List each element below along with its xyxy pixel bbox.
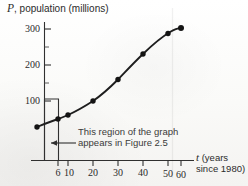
inset-region-box	[45, 99, 59, 161]
data-point	[90, 98, 95, 103]
x-tick-label-40: 40	[134, 167, 152, 178]
data-point	[34, 124, 39, 129]
data-point	[165, 31, 170, 36]
y-tick-label-300: 300	[10, 23, 40, 34]
data-point	[140, 51, 145, 56]
data-point	[178, 25, 184, 31]
x-axis-label-line2: since 1980)	[196, 164, 245, 174]
annotation-line-1: This region of the graph	[78, 126, 178, 137]
x-tick-label-60: 60	[172, 169, 190, 180]
x-axis-label-line1: (years	[199, 152, 228, 163]
y-tick-label-100: 100	[10, 95, 40, 106]
figure-container: P, population (millions) t (years since …	[0, 0, 248, 186]
annotation-line-2: appears in Figure 2.5	[78, 137, 178, 148]
x-axis-label: t (years since 1980)	[196, 152, 245, 174]
x-axis-ticks	[58, 161, 181, 167]
data-point	[115, 77, 120, 82]
annotation-leader-arrow	[51, 140, 76, 146]
x-tick-label-30: 30	[109, 167, 127, 178]
data-point	[65, 112, 70, 117]
y-axis-major-ticks	[45, 29, 52, 101]
y-axis-label-text: , population (millions)	[14, 3, 109, 14]
data-point	[55, 116, 60, 121]
x-tick-label-20: 20	[84, 167, 102, 178]
data-point-markers	[34, 25, 184, 130]
x-tick-label-10: 10	[60, 167, 78, 178]
y-axis-label: P, population (millions)	[7, 2, 109, 15]
inset-region-annotation: This region of the graph appears in Figu…	[78, 126, 178, 148]
y-axis-variable: P	[7, 2, 14, 14]
y-tick-label-200: 200	[10, 59, 40, 70]
